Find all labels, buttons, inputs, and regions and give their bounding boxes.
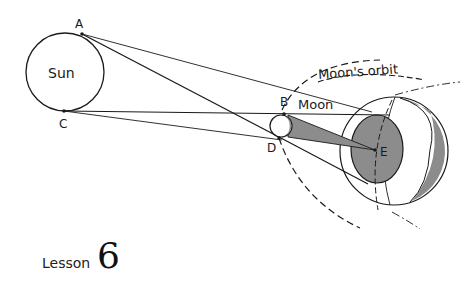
- point-b-dot: [282, 112, 286, 116]
- line-c-to-b: [64, 111, 390, 115]
- label-moon-orbit: Moon's orbit: [318, 61, 399, 82]
- label-e: E: [380, 145, 388, 159]
- point-a-dot: [80, 32, 84, 36]
- label-c: C: [59, 117, 67, 131]
- eclipse-diagram: Sun A C B Moon D E Moon's orbit: [0, 0, 467, 289]
- point-e-dot: [373, 148, 377, 152]
- moon-circle: [270, 115, 292, 137]
- line-c-to-d: [64, 111, 282, 140]
- label-sun: Sun: [48, 65, 75, 81]
- label-moon: Moon: [298, 97, 333, 112]
- line-a-to-d: [82, 34, 279, 137]
- point-c-dot: [62, 109, 66, 113]
- point-d-dot: [277, 136, 281, 140]
- label-a: A: [75, 17, 84, 31]
- label-b: B: [280, 95, 288, 109]
- label-d: D: [267, 141, 276, 155]
- lesson-number: 6: [97, 238, 120, 274]
- umbra-shadow: [351, 115, 403, 183]
- lesson-word: Lesson: [42, 255, 90, 271]
